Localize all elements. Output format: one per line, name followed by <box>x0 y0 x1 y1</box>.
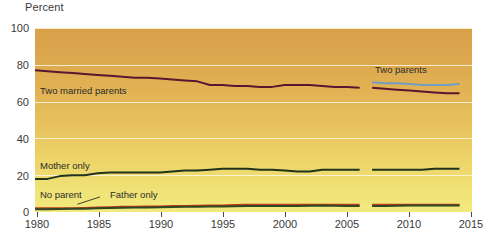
x-tick-2005: 2005 <box>327 218 367 230</box>
x-tick-mark-1985 <box>99 212 100 217</box>
label-no-parent: No parent <box>40 189 82 200</box>
x-tick-mark-1990 <box>161 212 162 217</box>
x-tick-1985: 1985 <box>79 218 119 230</box>
y-tick-20: 20 <box>3 170 29 182</box>
x-tick-1980: 1980 <box>17 218 57 230</box>
x-tick-mark-1980 <box>37 212 38 217</box>
x-tick-mark-1995 <box>223 212 224 217</box>
line-chart: Percent 100 80 60 40 20 0 1980 1985 1990… <box>0 0 497 244</box>
y-tick-40: 40 <box>3 133 29 145</box>
x-tick-2000: 2000 <box>265 218 305 230</box>
y-tick-60: 60 <box>3 96 29 108</box>
x-tick-mark-2000 <box>285 212 286 217</box>
y-tick-0: 0 <box>3 206 29 218</box>
label-two-parents: Two parents <box>375 64 427 75</box>
x-tick-mark-2005 <box>347 212 348 217</box>
y-axis-title: Percent <box>25 1 64 13</box>
gridline-40 <box>35 138 472 139</box>
gridline-60 <box>35 102 472 103</box>
x-tick-1995: 1995 <box>203 218 243 230</box>
y-tick-80: 80 <box>3 59 29 71</box>
x-tick-1990: 1990 <box>141 218 181 230</box>
plot-area <box>35 28 472 212</box>
x-tick-2010: 2010 <box>389 218 429 230</box>
gridline-100 <box>35 28 472 29</box>
x-tick-2015: 2015 <box>451 218 491 230</box>
y-tick-100: 100 <box>3 22 29 34</box>
x-tick-mark-2010 <box>409 212 410 217</box>
label-two-married-parents: Two married parents <box>40 85 127 96</box>
x-tick-mark-2015 <box>471 212 472 217</box>
label-mother-only: Mother only <box>40 160 90 171</box>
gridline-20 <box>35 175 472 176</box>
label-father-only: Father only <box>110 189 158 200</box>
